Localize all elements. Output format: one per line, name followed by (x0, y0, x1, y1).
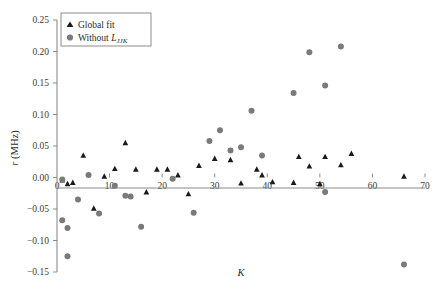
y-tick-label: −0.15 (27, 267, 49, 277)
x-tick-label: 60 (368, 181, 378, 191)
data-point-triangle (101, 173, 107, 178)
data-point-circle (306, 49, 312, 55)
data-point-triangle (238, 180, 244, 185)
y-axis-label: r (MHz) (9, 130, 21, 166)
series-without-ljjk (59, 43, 407, 267)
y-tick-label: 0.00 (32, 173, 49, 183)
data-point-circle (322, 83, 328, 89)
data-point-triangle (144, 189, 150, 194)
y-tick-label: −0.10 (27, 236, 49, 246)
data-point-triangle (122, 140, 128, 145)
legend: Global fit Without LJJK (61, 13, 151, 46)
data-point-triangle (306, 163, 312, 168)
y-tick-label: 0.05 (32, 141, 49, 151)
data-point-circle (122, 193, 128, 199)
y-tick-label: −0.05 (27, 204, 49, 214)
data-point-triangle (186, 191, 192, 196)
data-point-triangle (196, 163, 202, 168)
x-tick-label: 70 (420, 181, 430, 191)
data-point-triangle (80, 152, 86, 157)
data-point-circle (291, 90, 297, 96)
data-points-layer (59, 43, 407, 267)
x-tick-label: 20 (157, 181, 167, 191)
data-point-triangle (254, 166, 260, 171)
data-point-triangle (228, 157, 234, 162)
y-tick-label: 0.20 (32, 47, 49, 57)
y-axis-ticks: −0.15−0.10−0.050.000.050.100.150.200.25 (27, 15, 57, 277)
data-point-circle (401, 261, 407, 267)
data-point-circle (217, 127, 223, 133)
x-tick-label: 30 (210, 181, 220, 191)
x-tick-label: 40 (263, 181, 273, 191)
legend-label-global-fit: Global fit (78, 20, 115, 30)
data-point-triangle (165, 166, 171, 171)
data-point-circle (96, 210, 102, 216)
data-point-circle (86, 172, 92, 178)
data-point-circle (65, 253, 71, 259)
legend-marker-circle (67, 34, 73, 40)
data-point-triangle (175, 172, 181, 177)
data-point-circle (59, 217, 65, 223)
data-point-triangle (259, 172, 265, 177)
data-point-circle (249, 108, 255, 114)
data-point-triangle (65, 181, 71, 186)
data-point-triangle (338, 162, 344, 167)
data-point-circle (338, 43, 344, 49)
data-point-triangle (291, 180, 297, 185)
data-point-circle (238, 144, 244, 150)
data-point-circle (206, 138, 212, 144)
data-point-circle (65, 225, 71, 231)
data-point-circle (112, 183, 118, 189)
data-point-triangle (112, 166, 118, 171)
data-point-circle (170, 176, 176, 182)
data-point-circle (128, 193, 134, 199)
data-point-circle (322, 189, 328, 195)
data-point-triangle (296, 154, 302, 159)
data-point-circle (227, 147, 233, 153)
y-tick-label: 0.10 (32, 110, 49, 120)
data-point-triangle (133, 166, 139, 171)
data-point-circle (59, 176, 65, 182)
x-axis-label: K (236, 267, 245, 278)
data-point-triangle (401, 173, 407, 178)
scatter-plot-figure: −0.15−0.10−0.050.000.050.100.150.200.25 … (0, 0, 440, 297)
plot-area: −0.15−0.10−0.050.000.050.100.150.200.25 … (0, 0, 440, 297)
data-point-circle (191, 210, 197, 216)
y-tick-label: 0.25 (32, 15, 49, 25)
data-point-triangle (91, 205, 97, 210)
data-point-triangle (322, 154, 328, 159)
y-tick-label: 0.15 (32, 78, 49, 88)
chart-svg: −0.15−0.10−0.050.000.050.100.150.200.25 … (0, 0, 440, 297)
data-point-circle (138, 224, 144, 230)
data-point-circle (259, 152, 265, 158)
data-point-triangle (212, 156, 218, 161)
data-point-circle (75, 197, 81, 203)
data-point-triangle (70, 180, 76, 185)
data-point-triangle (349, 151, 355, 156)
data-point-triangle (154, 166, 160, 171)
